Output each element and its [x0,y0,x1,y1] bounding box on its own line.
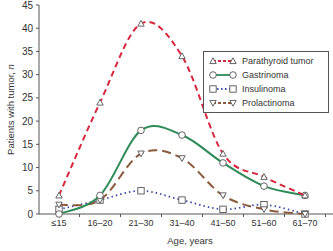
y-tick-label: 20 [22,116,34,127]
legend-swatch-icon [208,54,238,68]
x-tick-label: 41–50 [210,218,235,228]
legend: Parathyroid tumor Gastrinoma Insulinoma … [203,51,329,113]
y-axis-label: Patients with tumor, n [5,64,16,155]
data-point [97,99,103,105]
data-point [220,160,227,167]
legend-label: Gastrinoma [242,69,289,81]
legend-item-insulinoma: Insulinoma [204,82,328,96]
legend-label: Prolactinoma [242,97,295,109]
legend-item-parathyroid: Parathyroid tumor [204,54,328,68]
data-point [220,206,226,212]
data-point [97,192,104,199]
y-tick-label: 25 [22,92,34,103]
data-point [179,197,185,203]
y-tick-label: 30 [22,69,34,80]
data-point [56,211,63,218]
legend-swatch-icon [208,68,238,82]
legend-label: Parathyroid tumor [242,55,314,67]
y-tick-label: 10 [22,162,34,173]
data-point [138,127,145,134]
x-tick-label: 51–60 [251,218,276,228]
y-tick-label: 15 [22,139,34,150]
legend-swatch-icon [208,96,238,110]
data-point [138,188,144,194]
series-prolactinoma [56,150,308,217]
y-tick-label: 40 [22,23,34,34]
y-tick-label: 5 [27,185,33,196]
line-chart: 051015202530354045≤1516–2021–3031–4041–5… [0,0,333,251]
x-tick-label: ≤15 [52,218,67,228]
legend-label: Insulinoma [242,83,286,95]
x-tick-label: 21–30 [128,218,153,228]
data-point [179,156,185,162]
x-tick-label: 16–20 [87,218,112,228]
data-point [179,132,186,139]
data-point [56,192,62,198]
y-tick-label: 0 [27,209,33,220]
legend-item-gastrinoma: Gastrinoma [204,68,328,82]
data-point [261,183,268,190]
legend-swatch-icon [208,82,238,96]
y-tick-label: 35 [22,46,34,57]
x-tick-label: 61–70 [292,218,317,228]
x-axis-label: Age, years [167,235,213,246]
y-tick-label: 45 [22,0,34,11]
x-tick-label: 31–40 [169,218,194,228]
plot-area: 051015202530354045≤1516–2021–3031–4041–5… [0,0,333,251]
legend-item-prolactinoma: Prolactinoma [204,96,328,110]
